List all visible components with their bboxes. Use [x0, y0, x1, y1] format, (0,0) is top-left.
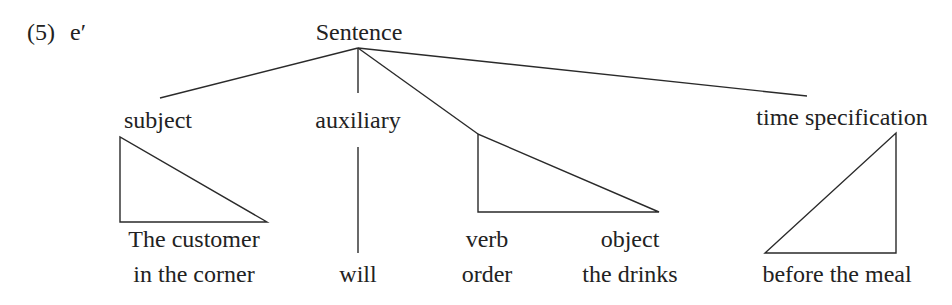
- time-triangle: [765, 133, 896, 253]
- subject-words-line1: The customer: [128, 226, 259, 252]
- subject-triangle: [120, 137, 267, 222]
- example-letter: e′: [70, 19, 86, 45]
- tree-branches: [0, 0, 952, 305]
- branch-root-subject: [160, 48, 358, 98]
- subject-node-label: subject: [124, 107, 192, 133]
- subject-words-line2: in the corner: [133, 261, 254, 287]
- object-word: the drinks: [582, 261, 677, 287]
- branch-root-time: [358, 48, 807, 96]
- auxiliary-node-label: auxiliary: [315, 107, 400, 133]
- time-words: before the meal: [762, 261, 911, 287]
- time-node-label: time specification: [756, 104, 927, 130]
- root-node-label: Sentence: [316, 19, 403, 45]
- object-label: object: [601, 226, 660, 252]
- auxiliary-word: will: [339, 261, 376, 287]
- example-number: (5): [27, 19, 55, 45]
- verb-word: order: [462, 261, 513, 287]
- predicate-triangle: [478, 134, 659, 212]
- verb-label: verb: [466, 226, 509, 252]
- syntax-tree-diagram: (5) e′ Sentence subject auxiliary time s…: [0, 0, 952, 305]
